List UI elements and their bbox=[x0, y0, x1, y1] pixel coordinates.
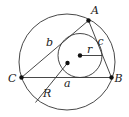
inradius-label: r bbox=[87, 43, 93, 56]
side-b-label: b bbox=[46, 36, 53, 49]
circumcenter-dot bbox=[65, 61, 69, 65]
vertex-C-dot bbox=[19, 75, 23, 79]
triangle-incircle-circumcircle-diagram: A B C a b c r R bbox=[0, 0, 129, 117]
side-a-label: a bbox=[64, 77, 71, 90]
vertex-A-label: A bbox=[90, 4, 99, 17]
circumradius-line bbox=[36, 63, 68, 103]
vertex-B-dot bbox=[109, 75, 113, 79]
side-c-label: c bbox=[98, 35, 104, 48]
vertex-A-dot bbox=[86, 18, 90, 22]
vertex-C-label: C bbox=[8, 72, 17, 85]
circumradius-label: R bbox=[42, 87, 51, 100]
vertex-B-label: B bbox=[114, 72, 123, 85]
incenter-dot bbox=[78, 53, 82, 57]
